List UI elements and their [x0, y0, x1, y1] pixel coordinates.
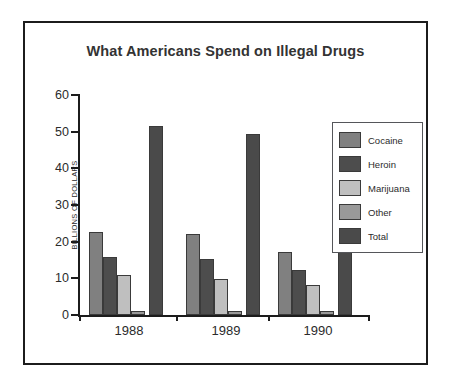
- bar-marijuana-1989: [214, 279, 228, 315]
- y-axis-tick-label: 0: [62, 308, 69, 322]
- bar-marijuana-1988: [117, 275, 131, 315]
- x-axis-tick: [368, 315, 370, 321]
- y-axis-tick: [71, 314, 78, 316]
- x-axis-tick: [176, 315, 178, 321]
- x-axis-label-1989: 1989: [186, 323, 266, 338]
- legend-item-total[interactable]: Total: [339, 226, 419, 246]
- bar-heroin-1988: [103, 257, 117, 315]
- legend-swatch-cocaine: [339, 132, 361, 148]
- y-axis-tick: [71, 241, 78, 243]
- bar-total-1988: [149, 126, 163, 315]
- chart-legend: CocaineHeroinMarijuanaOtherTotal: [332, 122, 423, 253]
- bar-marijuana-1990: [306, 285, 320, 315]
- y-axis-tick-label: 10: [55, 271, 69, 285]
- y-axis-tick-label: 40: [55, 161, 69, 175]
- y-axis-tick-label: 30: [55, 198, 69, 212]
- y-axis-tick: [71, 204, 78, 206]
- bar-other-1990: [320, 311, 334, 315]
- bar-other-1988: [131, 311, 145, 315]
- y-axis-tick: [71, 277, 78, 279]
- x-axis-label-1988: 1988: [89, 323, 169, 338]
- bar-total-1989: [246, 134, 260, 316]
- y-axis-tick: [71, 94, 78, 96]
- legend-swatch-other: [339, 204, 361, 220]
- chart-figure: What Americans Spend on Illegal Drugs BI…: [23, 21, 428, 365]
- y-axis-tick-label: 20: [55, 235, 69, 249]
- x-axis-tick: [79, 315, 81, 321]
- chart-title: What Americans Spend on Illegal Drugs: [25, 43, 426, 59]
- legend-label-marijuana: Marijuana: [368, 183, 410, 194]
- legend-item-heroin[interactable]: Heroin: [339, 154, 419, 174]
- legend-swatch-heroin: [339, 156, 361, 172]
- bar-group: 1989: [186, 95, 266, 315]
- legend-label-total: Total: [368, 231, 388, 242]
- bar-heroin-1990: [292, 270, 306, 315]
- legend-label-heroin: Heroin: [368, 159, 396, 170]
- x-axis-label-1990: 1990: [278, 323, 358, 338]
- y-axis-tick: [71, 167, 78, 169]
- bar-cocaine-1989: [186, 234, 200, 315]
- x-axis-line: [78, 315, 370, 317]
- legend-item-other[interactable]: Other: [339, 202, 419, 222]
- legend-item-marijuana[interactable]: Marijuana: [339, 178, 419, 198]
- bar-cocaine-1990: [278, 252, 292, 315]
- x-axis-tick: [268, 315, 270, 321]
- bar-cocaine-1988: [89, 232, 103, 315]
- legend-item-cocaine[interactable]: Cocaine: [339, 130, 419, 150]
- y-axis-tick: [71, 131, 78, 133]
- legend-swatch-total: [339, 228, 361, 244]
- y-axis-tick-label: 60: [55, 88, 69, 102]
- legend-label-cocaine: Cocaine: [368, 135, 403, 146]
- bar-other-1989: [228, 311, 242, 315]
- bar-group: 1988: [89, 95, 169, 315]
- legend-swatch-marijuana: [339, 180, 361, 196]
- bar-heroin-1989: [200, 259, 214, 315]
- legend-label-other: Other: [368, 207, 392, 218]
- y-axis-tick-label: 50: [55, 125, 69, 139]
